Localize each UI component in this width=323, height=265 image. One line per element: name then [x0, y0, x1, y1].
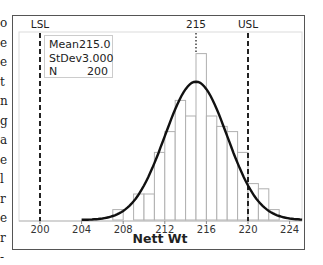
histogram-bar: [175, 100, 185, 220]
reference-line-label: LSL: [31, 18, 50, 30]
stats-row-stdev: StDev3.000: [49, 52, 108, 66]
histogram-bar: [206, 116, 216, 220]
histogram-bar: [144, 194, 154, 220]
histogram-bar: [227, 132, 237, 220]
stat-value: 200: [87, 65, 108, 79]
histogram-bar: [165, 132, 175, 220]
x-tick-label: 200: [30, 224, 49, 235]
histogram-bar: [238, 152, 248, 220]
histogram-bar: [196, 54, 206, 220]
x-tick-label: 216: [197, 224, 216, 235]
stat-label: N: [49, 65, 57, 79]
histogram-bar: [217, 126, 227, 220]
x-tick-label: 208: [114, 224, 133, 235]
stat-value: 215.0: [79, 38, 111, 52]
x-tick-label: 204: [72, 224, 91, 235]
reference-line-label: USL: [238, 18, 258, 30]
x-tick-label: 224: [280, 224, 299, 235]
histogram-bar: [154, 152, 164, 220]
stats-row-n: N200: [49, 65, 108, 79]
stats-row-mean: Mean215.0: [49, 38, 108, 52]
x-axis-label: Nett Wt: [132, 231, 187, 246]
stat-value: 3.000: [82, 52, 114, 66]
x-tick-label: 220: [238, 224, 257, 235]
reference-line-label: 215: [186, 18, 206, 30]
stat-label: Mean: [49, 38, 79, 52]
stat-label: StDev: [49, 52, 82, 66]
stats-box: Mean215.0 StDev3.000 N200: [44, 35, 113, 78]
histogram-bar: [186, 116, 196, 220]
